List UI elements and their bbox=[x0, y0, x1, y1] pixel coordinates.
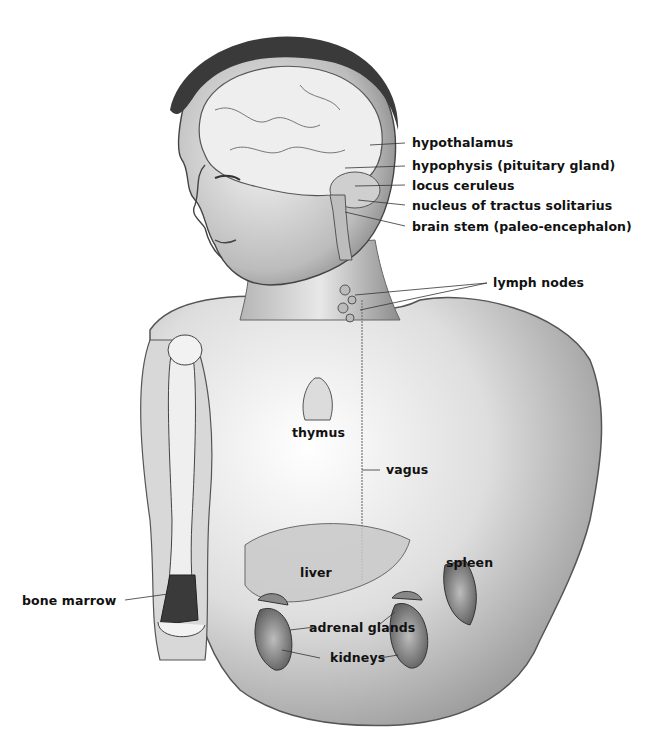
label-spleen: spleen bbox=[446, 557, 493, 570]
label-kidneys: kidneys bbox=[330, 652, 385, 665]
label-lymph-nodes: lymph nodes bbox=[493, 277, 584, 290]
label-thymus: thymus bbox=[292, 427, 345, 440]
label-hypophysis: hypophysis (pituitary gland) bbox=[412, 160, 615, 173]
label-adrenal-glands: adrenal glands bbox=[309, 622, 415, 635]
label-hypothalamus: hypothalamus bbox=[412, 137, 513, 150]
anatomy-figure: hypothalamus hypophysis (pituitary gland… bbox=[0, 0, 656, 735]
label-locus-ceruleus: locus ceruleus bbox=[412, 180, 514, 193]
label-vagus: vagus bbox=[386, 464, 428, 477]
label-liver: liver bbox=[300, 567, 332, 580]
label-brain-stem: brain stem (paleo-encephalon) bbox=[412, 221, 632, 234]
label-bone-marrow: bone marrow bbox=[22, 595, 116, 608]
humerus-head bbox=[168, 335, 202, 365]
label-nucleus-tractus-solitarius: nucleus of tractus solitarius bbox=[412, 200, 612, 213]
